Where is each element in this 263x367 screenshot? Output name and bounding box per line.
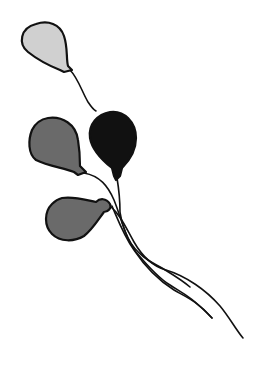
balloon-bottom-gray bbox=[46, 197, 111, 240]
balloon-bottom-gray-body bbox=[46, 197, 111, 240]
balloons-illustration bbox=[0, 0, 263, 367]
string-bottom-balloon bbox=[110, 206, 243, 338]
string-left-balloon bbox=[84, 173, 190, 287]
string-black-balloon bbox=[117, 178, 212, 318]
balloon-left-gray-body bbox=[29, 118, 86, 175]
balloon-top-light-body bbox=[22, 23, 72, 73]
string-extra bbox=[112, 206, 212, 318]
balloon-right-black bbox=[90, 112, 136, 180]
string-top-balloon bbox=[70, 70, 96, 111]
balloon-top-light bbox=[22, 23, 72, 73]
balloon-right-black-body bbox=[90, 112, 136, 180]
balloon-left-gray bbox=[29, 118, 86, 175]
